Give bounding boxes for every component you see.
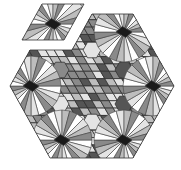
tiling-figure bbox=[0, 0, 181, 170]
main-hexagon bbox=[0, 0, 181, 170]
